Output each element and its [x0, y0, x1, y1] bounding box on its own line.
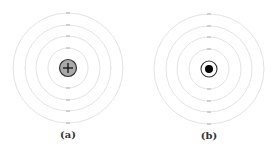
positive-charge-icon	[60, 60, 77, 77]
panel-a: (a)	[0, 0, 137, 152]
point-mass-icon	[201, 61, 217, 77]
caption-a: (a)	[48, 129, 88, 140]
caption-b: (b)	[189, 130, 229, 141]
panel-b: (b)	[137, 0, 274, 152]
